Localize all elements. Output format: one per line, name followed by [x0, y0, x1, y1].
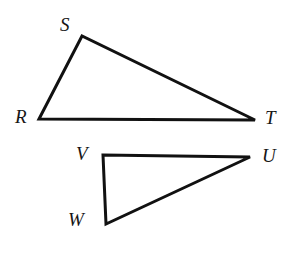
- vertex-label-u: U: [262, 146, 276, 165]
- triangle-vuw: [103, 155, 250, 224]
- vertex-label-r: R: [15, 107, 27, 126]
- vertex-label-v: V: [76, 144, 88, 163]
- vertex-label-t: T: [265, 108, 276, 127]
- triangle-rst: [39, 36, 255, 120]
- vertex-label-s: S: [60, 15, 70, 34]
- vertex-label-w: W: [68, 210, 84, 229]
- geometry-figure: [0, 0, 293, 263]
- diagram-canvas: S R T V U W: [0, 0, 293, 263]
